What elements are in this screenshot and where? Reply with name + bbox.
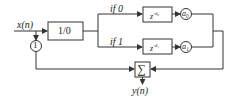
branch0-condition: if 0 <box>110 4 123 14</box>
feedback-node-label: 1 <box>33 41 38 50</box>
summer-symbol: ∑ <box>137 63 146 75</box>
feedback-line <box>36 52 134 69</box>
delay-exp: -d₁ <box>153 43 159 48</box>
merge-lines <box>192 14 213 47</box>
branch1-condition: if 1 <box>110 37 123 47</box>
output-label: y(n) <box>132 86 148 96</box>
delay-exp: -d₀ <box>153 11 159 16</box>
input-label: x(n) <box>17 20 33 30</box>
delay-block-0-label: z-d₀ <box>150 11 159 21</box>
block-diagram <box>0 0 235 100</box>
selector-label: 1/0 <box>58 26 71 36</box>
gain-0-label: a₀ <box>182 10 189 18</box>
delay-block-1-label: z-d₁ <box>150 43 159 53</box>
gain-1-label: a₁ <box>182 43 189 51</box>
